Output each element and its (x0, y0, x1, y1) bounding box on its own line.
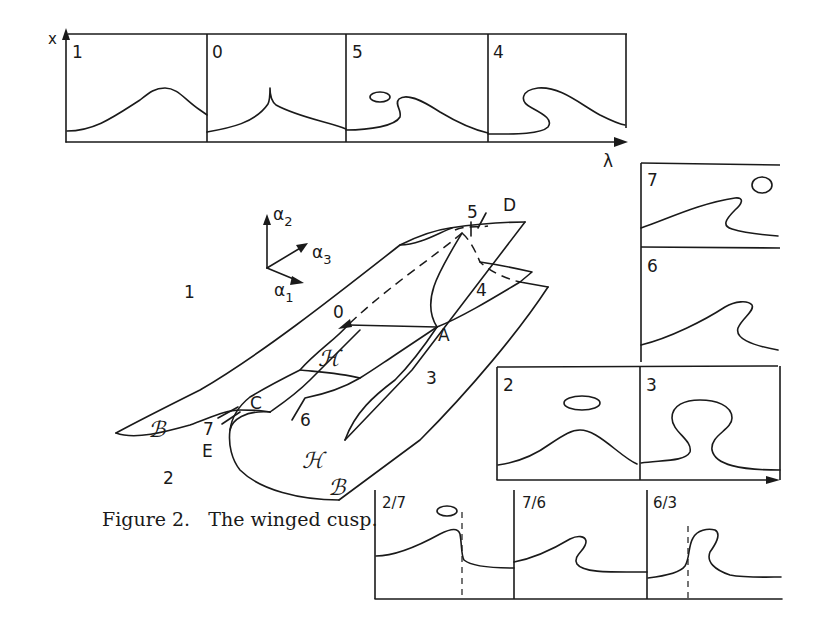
panel-0: 0 (207, 42, 346, 132)
region-label-7: 7 (203, 419, 214, 439)
right-panel-column: 7 6 (641, 163, 780, 362)
panel-7-6: 7/6 (514, 494, 647, 572)
alpha3-label: α3 (312, 242, 332, 267)
alpha1-arrow-icon (290, 276, 304, 285)
panel-label: 2 (503, 375, 514, 395)
panel-label: 7 (647, 170, 658, 190)
panel-label: 7/6 (522, 494, 546, 512)
top-panel-row: x λ 1 0 5 4 (48, 28, 628, 171)
panel-label: 0 (212, 42, 223, 62)
point-label-d: D (503, 195, 516, 215)
region-label-4: 4 (476, 280, 487, 300)
panel-6: 6 (641, 256, 778, 350)
region-label-2: 2 (163, 468, 174, 488)
lambda-axis-label: λ (603, 151, 613, 171)
alpha2-label: α2 (273, 204, 293, 229)
alpha2-arrow-icon (263, 214, 271, 225)
panel-6-3: 6/3 (648, 494, 781, 599)
panel-label: 6 (647, 256, 658, 276)
panel-label: 1 (72, 42, 83, 62)
x-axis-label: x (48, 30, 57, 48)
bottom-panel-row: 2/7 7/6 6/3 (375, 490, 782, 599)
lambda-arrow-icon (766, 476, 780, 484)
alpha3-arrow-icon (296, 243, 308, 253)
point-label-c: C (250, 393, 262, 413)
surface-label-b-lower: ℬ (328, 475, 347, 500)
panel-2: 2 (498, 375, 637, 465)
panel-4: 4 (488, 42, 625, 134)
mid-panel-row: 2 3 (497, 366, 780, 484)
region-label-3: 3 (426, 368, 437, 388)
panel-5: 5 (346, 42, 488, 133)
axes-3d: α2 α3 α1 (263, 204, 332, 305)
point-label-a: A (438, 325, 450, 345)
panel-1: 1 (67, 42, 207, 131)
winged-cusp-surface: 1 2 3 4 5 6 7 0 A C D E ℬ ℬ ℋ ℋ (116, 195, 548, 500)
surface-label-b-upper: ℬ (148, 417, 167, 442)
surface-label-h-upper: ℋ (318, 346, 343, 371)
region-label-0: 0 (333, 302, 344, 322)
panel-label: 6/3 (653, 494, 677, 512)
panel-7: 7 (641, 170, 778, 236)
region-label-1: 1 (184, 282, 195, 302)
panel-2-7: 2/7 (376, 494, 514, 599)
point-label-e: E (202, 441, 213, 461)
surface-label-h-lower: ℋ (302, 448, 327, 473)
figure-caption: Figure 2. The winged cusp. (102, 508, 377, 530)
region-label-6: 6 (300, 410, 311, 430)
panel-label: 2/7 (382, 494, 406, 512)
panel-label: 4 (493, 42, 504, 62)
lambda-axis-arrow-icon (614, 137, 628, 147)
region-label-5: 5 (467, 202, 478, 222)
panel-label: 3 (646, 375, 657, 395)
winged-cusp-figure: x λ 1 0 5 4 (0, 0, 821, 625)
panel-3: 3 (641, 375, 780, 470)
panel-label: 5 (352, 42, 363, 62)
